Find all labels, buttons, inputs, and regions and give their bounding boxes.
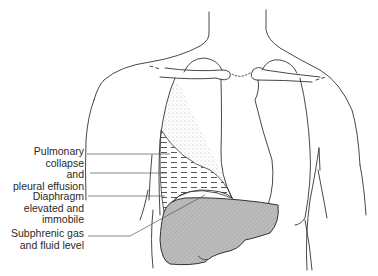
right-shoulder-outline — [266, 10, 360, 165]
label-subphrenic: Subphrenic gas and fluid level — [11, 228, 84, 251]
label-line: Pulmonary — [13, 146, 84, 158]
label-pulmonary-collapse: Pulmonary collapse and pleural effusion — [13, 146, 84, 192]
right-rib-line — [306, 148, 319, 270]
right-lung-outline — [295, 78, 310, 225]
left-flank-line — [152, 210, 154, 268]
left-clavicle — [160, 68, 230, 80]
anatomical-diagram: Pulmonary collapse and pleural effusion … — [0, 0, 378, 276]
left-shoulder-outline — [94, 12, 209, 100]
left-rib-line-1 — [149, 155, 152, 200]
label-line: immobile — [24, 214, 84, 226]
right-rib-edge — [318, 148, 327, 218]
right-clavicle-bottom — [251, 70, 312, 82]
sternal-notch — [232, 73, 250, 76]
liver — [160, 198, 278, 265]
label-diaphragm: Diaphragm elevated and immobile — [24, 191, 84, 226]
right-lung-apex — [262, 60, 297, 73]
label-line: Subphrenic gas — [11, 228, 84, 240]
right-arm-outline — [360, 165, 366, 215]
label-line: and fluid level — [11, 240, 84, 252]
label-line: and — [13, 169, 84, 181]
label-line: Diaphragm — [24, 191, 84, 203]
left-arm-outline — [86, 100, 95, 200]
left-rib-line-2 — [140, 190, 148, 220]
mediastinum-outline — [255, 80, 273, 205]
